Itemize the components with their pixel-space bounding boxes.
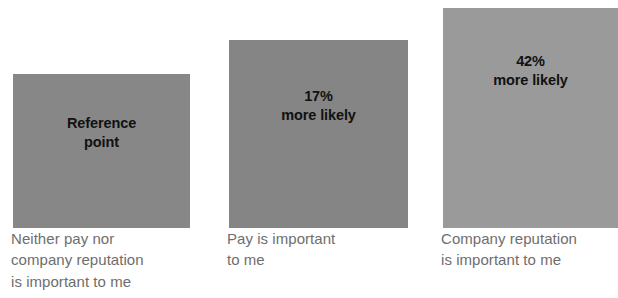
category-label-pay-important: Pay is important to me [227,228,417,271]
bar-reference[interactable]: Reference point [13,74,190,228]
bar-company-reputation[interactable]: 42% more likely [443,8,618,228]
category-label-company-reputation: Company reputation is important to me [441,228,618,271]
bar-value-label: 42% more likely [489,52,572,89]
chart-plot-area: Reference point 17% more likely 42% more… [0,0,618,228]
chart-category-axis: Neither pay nor company reputation is im… [0,228,618,298]
bar-chart-figure: Reference point 17% more likely 42% more… [0,0,618,298]
category-label-reference: Neither pay nor company reputation is im… [11,228,211,292]
bar-group-pay-important: 17% more likely [229,40,408,228]
bar-pay-important[interactable]: 17% more likely [229,40,408,228]
bar-group-company-reputation: 42% more likely [443,8,618,228]
bar-value-label: Reference point [63,114,140,151]
bar-value-label: 17% more likely [277,87,360,124]
bar-group-reference: Reference point [13,74,190,228]
